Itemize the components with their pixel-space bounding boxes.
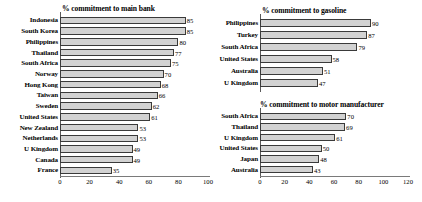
bar-category-label: U Kingdom [24, 145, 58, 153]
bar: 47 [260, 79, 318, 87]
bar-value-label: 75 [172, 60, 179, 67]
bar-value-label: 79 [358, 43, 365, 50]
bar: 61 [260, 134, 335, 141]
bar-row: Taiwan66 [60, 90, 208, 101]
axis-tick-label: 0 [58, 178, 61, 185]
bar: 48 [260, 155, 319, 162]
axis-tick-label: 20 [86, 178, 93, 185]
bar-category-label: U Kingdom [224, 134, 258, 142]
bar-value-label: 48 [320, 155, 327, 162]
bar-chart-main-bank: % commitment to main bank Indonesia85Sou… [0, 4, 212, 200]
bar: 62 [60, 102, 152, 110]
bar-row: U Kingdom49 [60, 144, 208, 155]
bar-value-label: 35 [113, 167, 120, 174]
bar: 90 [260, 19, 371, 27]
bar-row: United States61 [60, 111, 208, 122]
bar: 51 [260, 67, 323, 75]
bar-value-label: 85 [187, 17, 194, 24]
bar-category-label: South Korea [21, 27, 58, 35]
axis-tick-label: 120 [403, 178, 413, 185]
bar-category-label: Philippines [226, 19, 258, 27]
bar-category-label: Sweden [36, 102, 58, 110]
bar-category-label: Thailand [32, 49, 58, 57]
bar: 69 [260, 123, 345, 130]
bar-value-label: 47 [319, 79, 326, 86]
bar-row: New Zealand53 [60, 122, 208, 133]
axis-tick-label: 100 [203, 178, 213, 185]
bar-value-label: 61 [336, 134, 343, 141]
plot-area-gasoline: Philippines90Turkey87South Africa79Unite… [260, 17, 408, 89]
bar-category-label: South Africa [221, 43, 258, 51]
bar-chart-gasoline: % commitment to gasoline Philippines90Tu… [216, 4, 422, 96]
bar-row: United States50 [260, 143, 408, 154]
bar-value-label: 77 [175, 49, 182, 56]
bar-category-label: United States [219, 55, 258, 63]
bar-chart-motor-manufacturer: % commitment to motor manufacturer South… [216, 96, 422, 200]
bar-category-label: Norway [35, 70, 58, 78]
bar-category-label: Australia [231, 166, 258, 174]
bar: 85 [60, 27, 186, 35]
bar-row: South Africa75 [60, 58, 208, 69]
bar-value-label: 50 [323, 145, 330, 152]
bar-value-label: 90 [372, 19, 379, 26]
bar-value-label: 62 [153, 103, 160, 110]
bar-category-label: Philippines [26, 38, 58, 46]
bar-value-label: 70 [165, 70, 172, 77]
bar-row: Canada49 [60, 154, 208, 165]
bar-category-label: Netherlands [23, 134, 58, 142]
bar-value-label: 61 [151, 113, 158, 120]
bar-row: South Africa79 [260, 41, 408, 53]
bar: 61 [60, 113, 150, 121]
bar-value-label: 43 [314, 166, 321, 173]
bar-value-label: 70 [347, 113, 354, 120]
bar: 49 [60, 156, 133, 164]
plot-area-main-bank: Indonesia85South Korea85Philippines80Tha… [60, 15, 208, 176]
bar-row: Philippines80 [60, 36, 208, 47]
bar: 80 [60, 38, 178, 46]
bar-category-label: United States [19, 113, 58, 121]
axis-tick-label: 40 [306, 178, 313, 185]
bar-row: Thailand77 [60, 47, 208, 58]
bar: 70 [260, 113, 346, 120]
bar: 68 [60, 81, 161, 89]
bar-value-label: 87 [368, 31, 375, 38]
bar-category-label: Taiwan [37, 91, 58, 99]
bar-row: Turkey87 [260, 29, 408, 41]
bar-category-label: Indonesia [30, 16, 58, 24]
bar-row: Sweden62 [60, 101, 208, 112]
bar-row: U Kingdom47 [260, 77, 408, 89]
chart-title-main-bank: % commitment to main bank [62, 4, 155, 13]
bar-row: Norway70 [60, 69, 208, 80]
bar-row: South Africa70 [260, 111, 408, 122]
bar-row: Netherlands53 [60, 133, 208, 144]
bar: 79 [260, 43, 357, 51]
bar-category-label: Hong Kong [24, 81, 58, 89]
bar: 53 [60, 135, 138, 143]
axis-tick-label: 60 [146, 178, 153, 185]
chart-panel-motor-manufacturer: % commitment to motor manufacturer South… [216, 96, 422, 200]
bar-value-label: 53 [139, 135, 146, 142]
bar: 35 [60, 167, 112, 175]
bar-value-label: 69 [346, 123, 353, 130]
bar-category-label: Thailand [232, 123, 258, 131]
chart-panel-gasoline: % commitment to gasoline Philippines90Tu… [216, 4, 422, 96]
bar-value-label: 68 [162, 81, 169, 88]
bar: 85 [60, 17, 186, 25]
bar-value-label: 49 [134, 156, 141, 163]
axis-tick-label: 80 [355, 178, 362, 185]
bar-row: France35 [60, 165, 208, 176]
bar-value-label: 51 [324, 67, 331, 74]
bar-row: Indonesia85 [60, 15, 208, 26]
plot-area-motor-manufacturer: South Africa70Thailand69U Kingdom61Unite… [260, 111, 408, 175]
bar: 50 [260, 145, 322, 152]
bar-value-label: 53 [139, 124, 146, 131]
bar: 43 [260, 166, 313, 173]
bar-category-label: France [38, 166, 58, 174]
bar-value-label: 66 [159, 92, 166, 99]
bar-category-label: Canada [35, 156, 58, 164]
axis-tick-label: 100 [378, 178, 388, 185]
bar: 77 [60, 49, 174, 57]
axis-tick-label: 80 [175, 178, 182, 185]
chart-panel-main-bank: % commitment to main bank Indonesia85Sou… [0, 4, 212, 200]
bar-category-label: New Zealand [20, 124, 58, 132]
